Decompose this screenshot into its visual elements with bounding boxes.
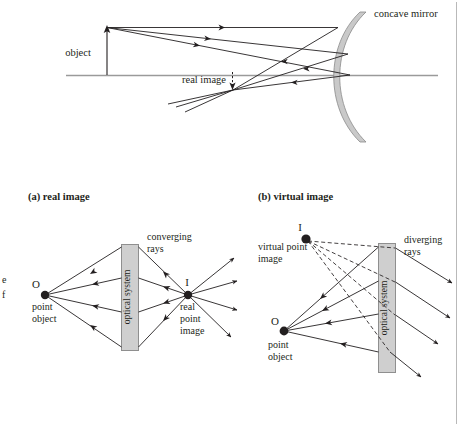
panel-b-virtual-image-label-line2: image bbox=[258, 253, 283, 264]
panel-a-converging-ray-1 bbox=[139, 247, 189, 295]
panel-b-diverging-ray-2 bbox=[396, 282, 451, 318]
panel-a-image-label-line2: point bbox=[180, 313, 201, 324]
panel-a-exit-ray-1 bbox=[188, 258, 234, 295]
panel-b-incident-ray-3-arrow bbox=[324, 320, 332, 327]
panel-b-diverging-rays-label-line2: rays bbox=[404, 246, 421, 257]
panel-b-I-label: I bbox=[298, 221, 302, 233]
reflected-ray-1 bbox=[233, 28, 338, 91]
panel-a-incident-ray-1-arrow bbox=[88, 268, 97, 277]
panel-b-diverging-rays-label-line1: diverging bbox=[404, 234, 442, 245]
panel-b-incident-ray-3 bbox=[284, 314, 379, 331]
panel-b-O-label: O bbox=[271, 315, 279, 327]
panel-a: optical system O point object converging… bbox=[32, 231, 237, 351]
panel-b-diverging-ray-3 bbox=[396, 315, 439, 344]
object-label: object bbox=[65, 47, 91, 58]
reflected-ray-2 bbox=[233, 54, 348, 90]
panel-a-I-label: I bbox=[185, 276, 189, 288]
incident-ray-3-arrow bbox=[193, 42, 201, 49]
panel-b-object-label-line1: point bbox=[268, 339, 289, 350]
panel-a-incident-ray-2 bbox=[45, 278, 122, 295]
panel-b-incident-ray-4 bbox=[284, 331, 379, 352]
panel-a-image-label-line3: image bbox=[180, 325, 205, 336]
top-diagram: concave mirror object real image bbox=[65, 8, 438, 142]
panel-b-virtual-image-label-line1: virtual point bbox=[258, 241, 307, 252]
diverging-tail-2 bbox=[176, 90, 233, 107]
panel-a-converging-ray-3-arrow bbox=[162, 298, 171, 306]
caption-a: (a) real image bbox=[28, 191, 90, 203]
panel-a-converging-ray-2-arrow bbox=[162, 284, 171, 292]
reflected-ray-3-arrow bbox=[291, 80, 298, 85]
panel-a-optical-system-label: optical system bbox=[122, 269, 132, 324]
concave-mirror-arc bbox=[334, 12, 366, 142]
panel-a-O-label: O bbox=[32, 278, 40, 290]
concave-mirror-label: concave mirror bbox=[374, 8, 438, 19]
panel-a-incident-ray-3-arrow bbox=[91, 303, 99, 310]
margin-fragment-2: f bbox=[2, 289, 6, 300]
incident-ray-2 bbox=[107, 28, 348, 55]
panel-a-converging-ray-1-arrow bbox=[161, 269, 170, 278]
optics-figure: concave mirror object real image (a) rea… bbox=[0, 0, 476, 426]
panel-a-exit-ray-2 bbox=[188, 281, 237, 295]
diverging-tail-3 bbox=[185, 90, 233, 112]
panel-a-incident-ray-4 bbox=[45, 295, 122, 347]
panel-b-optical-system-label: optical system bbox=[379, 280, 389, 335]
panel-b-incident-ray-4-arrow bbox=[339, 341, 347, 348]
panel-a-image-label-line1: real bbox=[180, 301, 195, 312]
panel-b-incident-ray-2-arrow bbox=[321, 305, 330, 313]
panel-a-object-label-line2: object bbox=[32, 313, 57, 324]
panel-b-object-label-line2: object bbox=[268, 351, 293, 362]
panel-a-object-label-line1: point bbox=[32, 301, 53, 312]
panel-a-converging-rays-label-line2: rays bbox=[147, 243, 164, 254]
panel-a-incident-ray-3 bbox=[45, 295, 122, 312]
panel-a-incident-ray-2-arrow bbox=[91, 280, 99, 287]
caption-b: (b) virtual image bbox=[258, 191, 334, 203]
real-image-label: real image bbox=[182, 74, 226, 85]
diverging-tail-1 bbox=[168, 90, 233, 104]
panel-a-incident-ray-1 bbox=[45, 247, 122, 295]
margin-fragment-1: e bbox=[2, 274, 7, 285]
panel-b: optical system I virtual point image O p… bbox=[258, 221, 452, 377]
incident-ray-3 bbox=[107, 28, 350, 76]
panel-a-converging-rays-label-line1: converging bbox=[147, 231, 192, 242]
